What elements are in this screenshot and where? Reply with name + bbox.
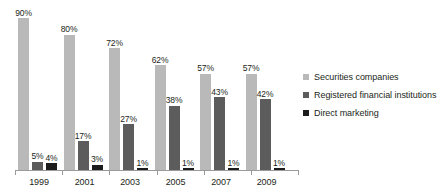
bar[interactable]	[214, 97, 225, 170]
bar-group: 57%42%1%	[246, 18, 292, 170]
bar-column[interactable]: 1%	[274, 18, 285, 170]
bar-group-bars: 62%38%1%	[155, 18, 201, 170]
x-axis-tick	[204, 170, 205, 175]
bar-column[interactable]: 90%	[18, 18, 29, 170]
x-axis-tick-label: 2007	[198, 178, 244, 188]
bar-column[interactable]: 27%	[123, 18, 134, 170]
bar[interactable]	[200, 74, 211, 170]
legend-label: Direct marketing	[314, 109, 379, 118]
x-axis-tick-label: 2001	[62, 178, 108, 188]
bar-column[interactable]: 17%	[78, 18, 89, 170]
legend-item-registered-financial-institutions: Registered financial institutions	[303, 86, 445, 104]
x-axis-tick	[298, 170, 299, 175]
bar-column[interactable]: 5%	[32, 18, 43, 170]
x-axis-tick	[251, 170, 252, 175]
bar-value-label: 42%	[257, 90, 274, 99]
bar-column[interactable]: 38%	[169, 18, 180, 170]
bar-value-label: 3%	[91, 155, 103, 164]
x-axis-tick-label: 2009	[244, 178, 290, 188]
bar-value-label: 72%	[106, 39, 123, 48]
bar-column[interactable]: 57%	[246, 18, 257, 170]
bar[interactable]	[155, 65, 166, 170]
bar-value-label: 1%	[273, 159, 285, 168]
bar-group: 80%17%3%	[64, 18, 110, 170]
legend-swatch-icon	[303, 110, 309, 116]
bar-value-label: 38%	[166, 96, 183, 105]
bar-group-bars: 80%17%3%	[64, 18, 110, 170]
bar[interactable]	[64, 35, 75, 170]
bar-value-label: 4%	[45, 154, 57, 163]
bar-value-label: 1%	[227, 159, 239, 168]
bar-value-label: 57%	[197, 64, 214, 73]
bar-group-bars: 90%5%4%	[18, 18, 64, 170]
bar[interactable]	[123, 124, 134, 170]
bar[interactable]	[246, 74, 257, 170]
bar[interactable]	[260, 99, 271, 170]
bar-column[interactable]: 43%	[214, 18, 225, 170]
bar-value-label: 80%	[61, 25, 78, 34]
bar[interactable]	[18, 18, 29, 170]
x-axis-tick-label: 2003	[107, 178, 153, 188]
bar-column[interactable]: 80%	[64, 18, 75, 170]
bar-value-label: 17%	[75, 132, 92, 141]
legend-label: Securities companies	[314, 73, 399, 82]
bar[interactable]	[46, 163, 57, 170]
legend-swatch-icon	[303, 74, 309, 80]
legend-item-securities-companies: Securities companies	[303, 68, 445, 86]
bar-group-bars: 72%27%1%	[109, 18, 155, 170]
x-axis-tick-label: 1999	[16, 178, 62, 188]
bar-value-label: 5%	[31, 152, 43, 161]
x-axis-tick	[62, 170, 63, 175]
bar-column[interactable]: 4%	[46, 18, 57, 170]
bar-column[interactable]: 62%	[155, 18, 166, 170]
legend-label: Registered financial institutions	[314, 91, 436, 100]
bar[interactable]	[109, 48, 120, 170]
bar-value-label: 57%	[243, 64, 260, 73]
bar-value-label: 90%	[15, 9, 32, 18]
bar-column[interactable]: 42%	[260, 18, 271, 170]
bar-group: 57%43%1%	[200, 18, 246, 170]
x-axis-tick-label: 2005	[153, 178, 199, 188]
bar-value-label: 1%	[182, 159, 194, 168]
bar-group-bars: 57%43%1%	[200, 18, 246, 170]
bar-column[interactable]: 72%	[109, 18, 120, 170]
chart-legend: Securities companies Registered financia…	[303, 68, 445, 122]
plot-area: 90%5%4%80%17%3%72%27%1%62%38%1%57%43%1%5…	[0, 0, 300, 196]
bar[interactable]	[32, 162, 43, 170]
bar-group: 90%5%4%	[18, 18, 64, 170]
x-axis-tick	[157, 170, 158, 175]
chart-screenshot: 90%5%4%80%17%3%72%27%1%62%38%1%57%43%1%5…	[0, 0, 446, 196]
bar-column[interactable]: 1%	[183, 18, 194, 170]
bar-group-bars: 57%42%1%	[246, 18, 292, 170]
bar-group: 72%27%1%	[109, 18, 155, 170]
bar-value-label: 1%	[136, 159, 148, 168]
bar-column[interactable]: 1%	[137, 18, 148, 170]
legend-swatch-icon	[303, 92, 309, 98]
bar[interactable]	[78, 141, 89, 170]
legend-item-direct-marketing: Direct marketing	[303, 104, 445, 122]
bar-column[interactable]: 1%	[228, 18, 239, 170]
bar[interactable]	[169, 106, 180, 170]
x-axis-tick	[109, 170, 110, 175]
bar-value-label: 43%	[211, 88, 228, 97]
bar-column[interactable]: 3%	[92, 18, 103, 170]
bar-value-label: 62%	[152, 56, 169, 65]
bar-group: 62%38%1%	[155, 18, 201, 170]
bar-value-label: 27%	[120, 115, 137, 124]
x-axis-tick	[15, 170, 16, 175]
bar-column[interactable]: 57%	[200, 18, 211, 170]
